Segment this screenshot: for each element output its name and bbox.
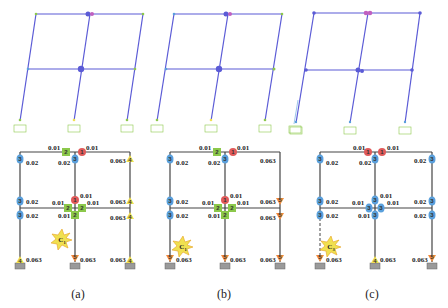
svg-text:0.063: 0.063 — [380, 256, 396, 264]
svg-text:0.063: 0.063 — [110, 198, 126, 206]
svg-text:0.02: 0.02 — [208, 159, 221, 167]
svg-text:0.02: 0.02 — [414, 157, 427, 165]
caption-c: (c) — [365, 287, 378, 301]
svg-text:0.02: 0.02 — [176, 159, 189, 167]
svg-text:0.01: 0.01 — [202, 199, 215, 207]
svg-text:0.063: 0.063 — [80, 256, 96, 264]
svg-text:0.01: 0.01 — [208, 212, 221, 220]
svg-text:0.01: 0.01 — [199, 144, 212, 152]
collapse-marker-a: C1 — [51, 229, 72, 250]
collapse-marker-c: C3 — [320, 236, 341, 257]
svg-text:0.063: 0.063 — [110, 256, 126, 264]
deformed-frame-c-joints — [290, 11, 422, 134]
svg-text:0.01: 0.01 — [387, 199, 400, 207]
svg-text:0.063: 0.063 — [26, 256, 42, 264]
svg-text:0.01: 0.01 — [237, 199, 250, 207]
svg-text:0.063: 0.063 — [260, 157, 276, 165]
svg-text:0.01: 0.01 — [58, 212, 71, 220]
svg-text:0.01: 0.01 — [353, 144, 366, 152]
svg-text:0.02: 0.02 — [58, 159, 71, 167]
svg-text:0.02: 0.02 — [176, 198, 189, 206]
svg-text:0.01: 0.01 — [87, 199, 100, 207]
svg-text:0.063: 0.063 — [260, 214, 276, 222]
figure-canvas: 2 1 0.01 0.01 3 0.02 3 0.02 4 0.063 3 0.… — [0, 0, 448, 308]
svg-text:0.02: 0.02 — [326, 198, 339, 206]
svg-text:0.02: 0.02 — [26, 198, 39, 206]
caption-a: (a) — [71, 287, 84, 301]
svg-text:0.063: 0.063 — [110, 157, 126, 165]
svg-text:0.02: 0.02 — [414, 198, 427, 206]
svg-text:0.063: 0.063 — [260, 256, 276, 264]
svg-text:0.063: 0.063 — [176, 256, 192, 264]
svg-text:0.01: 0.01 — [52, 199, 65, 207]
svg-text:0.063: 0.063 — [412, 256, 428, 264]
svg-text:0.02: 0.02 — [26, 159, 39, 167]
svg-text:0.063: 0.063 — [110, 214, 126, 222]
hinge-frame-a — [20, 152, 130, 262]
svg-text:0.02: 0.02 — [176, 212, 189, 220]
svg-text:0.063: 0.063 — [326, 256, 342, 264]
svg-text:0.02: 0.02 — [326, 159, 339, 167]
svg-text:0.02: 0.02 — [326, 212, 339, 220]
svg-text:0.02: 0.02 — [359, 159, 372, 167]
svg-text:0.01: 0.01 — [352, 199, 365, 207]
svg-text:0.01: 0.01 — [387, 144, 400, 152]
label: 0.01 — [48, 144, 61, 152]
caption-b: (b) — [217, 287, 231, 301]
svg-text:0.063: 0.063 — [230, 256, 246, 264]
svg-text:0.02: 0.02 — [414, 212, 427, 220]
svg-text:0.01: 0.01 — [86, 144, 99, 152]
svg-text:0.01: 0.01 — [237, 144, 250, 152]
collapse-marker-b: C1 — [172, 236, 193, 257]
svg-text:0.063: 0.063 — [260, 198, 276, 206]
svg-text:0.01: 0.01 — [358, 212, 371, 220]
svg-text:0.02: 0.02 — [26, 212, 39, 220]
